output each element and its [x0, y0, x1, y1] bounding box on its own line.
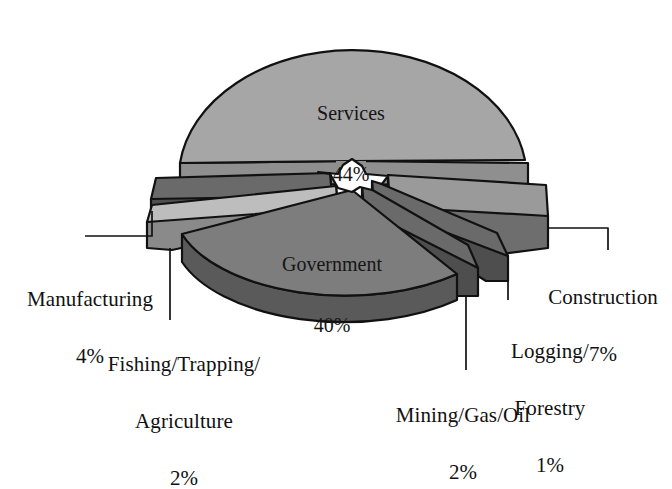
- slice-label-construction-name: Construction: [528, 286, 672, 309]
- slice-label-logging-name-line2: Forestry: [494, 397, 606, 420]
- leader-line-construction: [547, 228, 608, 250]
- slice-label-construction: Construction 7%: [528, 251, 672, 400]
- slice-label-fishing-name-line2: Agriculture: [94, 410, 274, 433]
- slice-label-manufacturing-name: Manufacturing: [6, 288, 174, 311]
- slice-label-fishing-value: 2%: [94, 467, 274, 489]
- slice-label-fishing: Fishing/Trapping/ Agriculture 2%: [94, 318, 274, 489]
- slice-label-logging-value: 1%: [494, 454, 606, 477]
- slice-label-services-name: Services: [281, 102, 421, 126]
- slice-label-fishing-name-line1: Fishing/Trapping/: [94, 353, 274, 376]
- slice-label-construction-value: 7%: [528, 343, 672, 366]
- slice-label-services: Services 44%: [281, 64, 421, 224]
- slice-label-services-value: 44%: [281, 163, 421, 187]
- slice-label-government-name: Government: [246, 253, 418, 277]
- leader-line-manufacturing: [85, 211, 152, 236]
